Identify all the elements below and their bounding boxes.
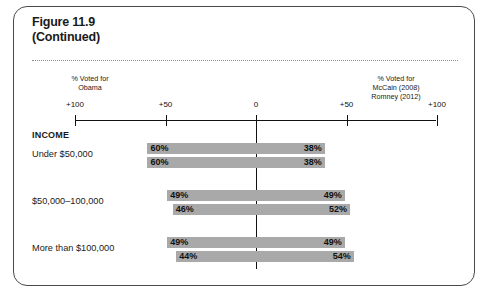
axis-tick-mark xyxy=(75,115,76,126)
figure-title-line1: Figure 11.9 xyxy=(32,15,100,30)
figure-title-line2: (Continued) xyxy=(32,30,100,45)
category-label: More than $100,000 xyxy=(32,243,114,253)
axis-tick-label: +50 xyxy=(146,100,186,109)
bar-value-left: 44% xyxy=(179,251,197,262)
bar-value-right: 49% xyxy=(302,237,342,248)
axis-tick-mark xyxy=(166,115,167,126)
bar-value-right: 52% xyxy=(307,204,347,215)
axis-caption-left: % Voted for Obama xyxy=(44,74,136,92)
bar-value-right: 49% xyxy=(302,190,342,201)
figure-frame: Figure 11.9 (Continued) % Voted for Obam… xyxy=(13,6,475,286)
header-divider xyxy=(32,60,458,61)
bar-value-left: 46% xyxy=(176,204,194,215)
axis-tick-mark xyxy=(347,115,348,126)
category-label: Under $50,000 xyxy=(32,149,93,159)
axis-tick-mark xyxy=(256,115,257,126)
figure-title: Figure 11.9 (Continued) xyxy=(32,15,100,45)
bar-value-left: 60% xyxy=(150,157,168,168)
axis-tick-label: +50 xyxy=(327,100,367,109)
bar-value-left: 60% xyxy=(150,143,168,154)
bar-value-left: 49% xyxy=(170,237,188,248)
axis-tick-label: +100 xyxy=(417,100,457,109)
bar-value-right: 54% xyxy=(311,251,351,262)
axis-tick-label: 0 xyxy=(236,100,276,109)
bar-value-right: 38% xyxy=(282,143,322,154)
category-label: $50,000–100,000 xyxy=(32,196,104,206)
axis-tick-label: +100 xyxy=(55,100,95,109)
axis-caption-right: % Voted for McCain (2008) Romney (2012) xyxy=(344,74,448,102)
section-heading: INCOME xyxy=(32,130,69,140)
bar-value-right: 38% xyxy=(282,157,322,168)
axis-tick-mark xyxy=(437,115,438,126)
bar-value-left: 49% xyxy=(170,190,188,201)
